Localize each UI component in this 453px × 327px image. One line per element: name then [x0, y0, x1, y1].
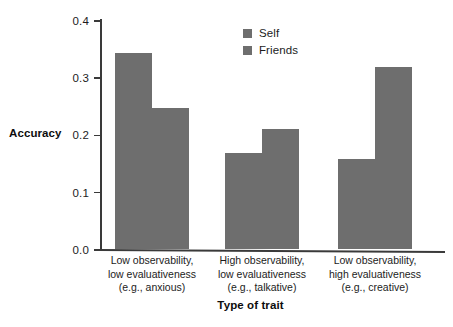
bar-self-group1	[115, 53, 152, 249]
x-axis-category-label: High observability,low evaluativeness(e.…	[202, 254, 322, 295]
y-axis-tick-label: 0.1	[72, 187, 89, 199]
bar-friends-group3	[375, 67, 412, 249]
bar-self-group2	[225, 153, 262, 249]
legend-swatch-icon	[243, 29, 252, 38]
legend-label: Self	[259, 27, 279, 39]
y-axis-title: Accuracy	[9, 127, 62, 139]
legend-label: Friends	[259, 44, 298, 56]
category-label-line: low evaluativeness	[202, 268, 322, 282]
legend-swatch-icon	[243, 46, 252, 55]
legend-item-friends[interactable]: Friends	[243, 43, 298, 57]
y-axis-tick-label: 0.4	[72, 15, 89, 27]
x-axis-line	[100, 249, 445, 253]
category-label-line: high evaluativeness	[315, 268, 435, 282]
x-axis-title-text: Type of trait	[217, 299, 283, 311]
bar-self-group3	[338, 159, 375, 249]
y-axis-tick-label: 0.2	[72, 129, 89, 141]
y-axis-tick: 0.1	[94, 192, 101, 194]
y-axis-tick: 0.0	[94, 249, 101, 251]
x-axis-category-label: Low observability,low evaluativeness(e.g…	[92, 254, 212, 295]
bar-friends-group2	[262, 129, 299, 249]
y-axis-tick: 0.4	[94, 20, 101, 22]
y-axis-tick-label: 0.3	[72, 72, 89, 84]
y-axis-tick: 0.3	[94, 77, 101, 79]
category-label-line: High observability,	[202, 254, 322, 268]
x-axis-title: Type of trait	[0, 299, 453, 311]
category-label-line: Low observability,	[315, 254, 435, 268]
category-label-line: Low observability,	[92, 254, 212, 268]
legend-item-self[interactable]: Self	[243, 26, 298, 40]
category-label-line: low evaluativeness	[92, 268, 212, 282]
chart-legend: SelfFriends	[243, 26, 298, 60]
category-label-line: (e.g., anxious)	[92, 281, 212, 295]
bar-friends-group1	[152, 108, 189, 249]
category-label-line: (e.g., creative)	[315, 281, 435, 295]
bar-chart-figure: Accuracy 0.00.10.20.30.4 Low observabili…	[0, 0, 453, 327]
x-axis-category-label: Low observability,high evaluativeness(e.…	[315, 254, 435, 295]
y-axis-tick: 0.2	[94, 135, 101, 137]
category-label-line: (e.g., talkative)	[202, 281, 322, 295]
y-axis-tick-label: 0.0	[72, 244, 89, 256]
